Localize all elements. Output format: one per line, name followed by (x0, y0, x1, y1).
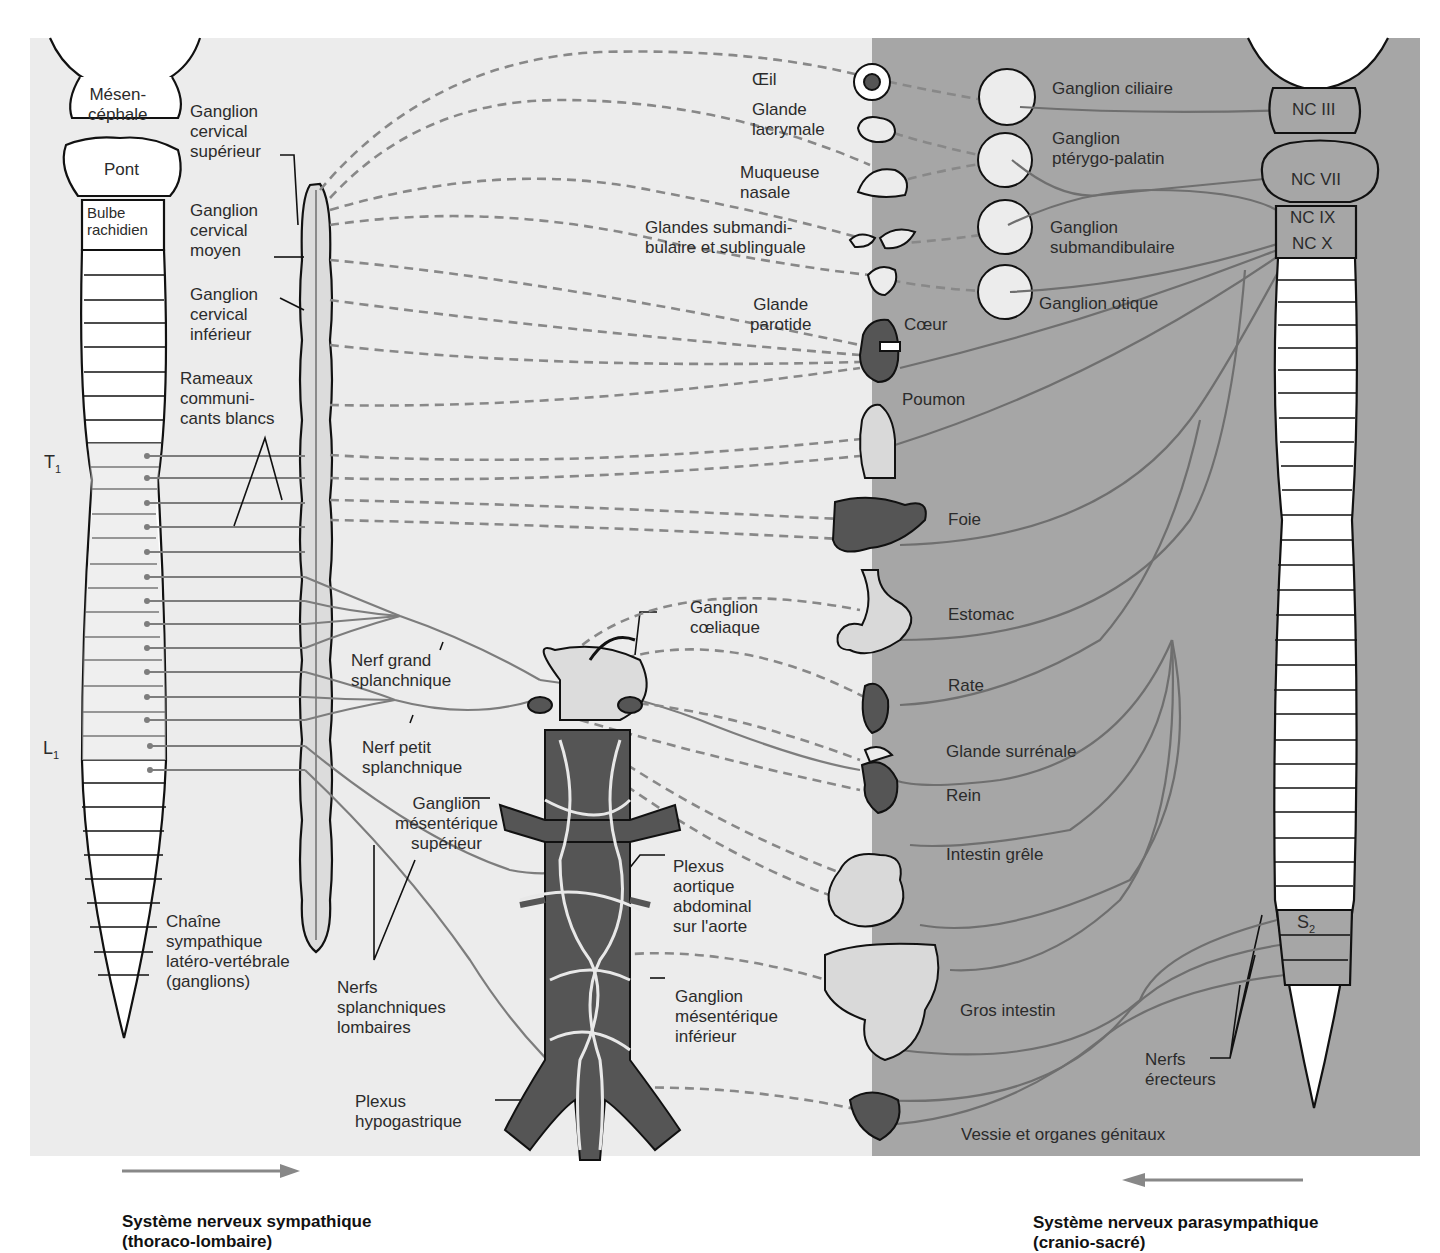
label-ganglion-cervical-superieur: Ganglion cervical supérieur (190, 102, 261, 162)
label-glande-lacrymale: Glande lacrymale (752, 100, 825, 140)
label-ganglion-mesenterique-inferieur: Ganglion mésentérique inférieur (675, 987, 778, 1047)
autonomic-nervous-system-diagram: Mésen- céphale Pont Bulbe rachidien NC I… (0, 0, 1440, 1253)
adrenal-gland-icon (865, 747, 892, 762)
label-plexus-hypogastrique: Plexus hypogastrique (355, 1092, 462, 1132)
label-ganglion-cervical-inferieur: Ganglion cervical inférieur (190, 285, 258, 345)
label-gros-intestin: Gros intestin (960, 1001, 1055, 1021)
label-glande-parotide: Glande parotide (750, 295, 811, 335)
marker-s2: S2 (1297, 912, 1315, 939)
label-ganglion-submandibulaire: Ganglion submandibulaire (1050, 218, 1175, 258)
label-foie: Foie (948, 510, 981, 530)
t1-subscript: 1 (55, 463, 61, 475)
label-nc7: NC VII (1291, 170, 1341, 190)
label-nc10: NC X (1292, 234, 1333, 254)
liver-icon (833, 498, 926, 552)
direction-arrows (122, 1164, 1303, 1187)
label-nerfs-erecteurs: Nerfs érecteurs (1145, 1050, 1216, 1090)
label-intestin-grele: Intestin grêle (946, 845, 1043, 865)
sublingual-gland-icon (850, 234, 875, 247)
s2-subscript: 2 (1309, 923, 1315, 935)
nasal-mucosa-icon (858, 169, 907, 197)
label-oeil: Œil (752, 70, 777, 90)
label-muqueuse-nasale: Muqueuse nasale (740, 163, 819, 203)
label-poumon: Poumon (902, 390, 965, 410)
lung-icon (860, 405, 895, 478)
l1-letter: L (43, 738, 53, 758)
label-ganglion-pterygo: Ganglion ptérygo-palatin (1052, 129, 1164, 169)
small-intestine-icon (829, 854, 904, 926)
label-nerf-grand-splanchnique: Nerf grand splanchnique (351, 651, 451, 691)
label-ganglion-otique: Ganglion otique (1039, 294, 1158, 314)
label-nc3: NC III (1292, 100, 1335, 120)
large-intestine-icon (825, 944, 938, 1060)
organ-illustrations (825, 64, 938, 1140)
label-glande-surrenale: Glande surrénale (946, 742, 1076, 762)
parasympathetic-preganglionic-fibers (880, 107, 1290, 1125)
label-rameaux-communicants: Rameaux communi- cants blancs (180, 369, 275, 429)
label-bulbe-rachidien: Bulbe rachidien (87, 204, 148, 238)
kidney-icon (862, 762, 897, 813)
caption-sympathetic: Système nerveux sympathique (thoraco-lom… (122, 1212, 371, 1252)
lacrimal-gland-icon (858, 117, 895, 142)
sympathetic-chain (300, 184, 332, 952)
bladder-icon (850, 1093, 900, 1141)
submandibular-gland-icon (880, 230, 915, 249)
label-nerfs-splanchniques-lombaires: Nerfs splanchniques lombaires (337, 978, 446, 1038)
label-vessie: Vessie et organes génitaux (961, 1125, 1165, 1145)
label-rate: Rate (948, 676, 984, 696)
t1-letter: T (44, 452, 55, 472)
label-mesencephale: Mésen- céphale (88, 85, 148, 125)
label-nerf-petit-splanchnique: Nerf petit splanchnique (362, 738, 462, 778)
label-pont: Pont (104, 160, 139, 180)
label-chaine-sympathique: Chaîne sympathique latéro-vertébrale (ga… (166, 912, 290, 992)
l1-subscript: 1 (53, 749, 59, 761)
label-ganglion-coeliaque: Ganglion cœliaque (690, 598, 760, 638)
label-ganglion-cervical-moyen: Ganglion cervical moyen (190, 201, 258, 261)
stomach-icon (838, 570, 912, 653)
marker-l1: L1 (43, 738, 59, 765)
label-nc9: NC IX (1290, 208, 1335, 228)
label-glandes-submandibulaire: Glandes submandi- bulaire et sublinguale (645, 218, 806, 258)
marker-t1: T1 (44, 452, 61, 479)
s2-letter: S (1297, 912, 1309, 932)
label-ganglion-mesenterique-superieur: Ganglion mésentérique supérieur (395, 794, 498, 854)
label-plexus-aortique: Plexus aortique abdominal sur l'aorte (673, 857, 751, 937)
label-estomac: Estomac (948, 605, 1014, 625)
aorta-plexus (500, 638, 680, 1161)
label-ganglion-ciliaire: Ganglion ciliaire (1052, 79, 1173, 99)
caption-parasympathetic: Système nerveux parasympathique (cranio-… (1033, 1213, 1318, 1253)
spleen-icon (863, 684, 889, 733)
label-coeur: Cœur (904, 315, 947, 335)
label-rein: Rein (946, 786, 981, 806)
parotid-gland-icon (868, 267, 896, 295)
